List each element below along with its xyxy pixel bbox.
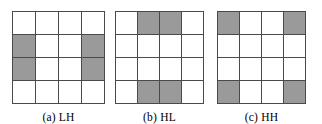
grid-cell-empty <box>182 58 203 80</box>
grid-cell-empty <box>13 81 35 103</box>
grid-cell-shaded <box>218 12 239 34</box>
grid-cell-empty <box>262 35 283 57</box>
grid-cell-shaded <box>82 58 104 80</box>
grid-cell-empty <box>116 12 137 34</box>
panel-hh: (c) HH <box>217 11 306 124</box>
grid-cell-empty <box>160 35 181 57</box>
grid-cell-empty <box>240 35 261 57</box>
grid-cell-empty <box>59 58 81 80</box>
figure-container: (a) LH (b) HL (c) HH <box>0 0 322 124</box>
grid-cell-empty <box>138 35 159 57</box>
caption-lh: (a) LH <box>42 111 74 124</box>
grid-cell-empty <box>284 35 305 57</box>
grid-cell-shaded <box>160 81 181 103</box>
grid-cell-shaded <box>284 81 305 103</box>
panel-hl: (b) HL <box>115 11 204 124</box>
grid-cell-empty <box>82 81 104 103</box>
grid-cell-empty <box>13 12 35 34</box>
grid-cell-empty <box>284 58 305 80</box>
grid-cell-empty <box>59 12 81 34</box>
grid-cell-empty <box>182 81 203 103</box>
grid-cell-empty <box>160 58 181 80</box>
grid-cell-empty <box>262 58 283 80</box>
grid-cell-empty <box>240 81 261 103</box>
grid-cell-empty <box>262 12 283 34</box>
grid-cell-empty <box>138 58 159 80</box>
grid-cell-empty <box>240 12 261 34</box>
grid-cell-empty <box>36 35 58 57</box>
grid-cell-empty <box>182 12 203 34</box>
grid-lh <box>12 11 105 104</box>
panel-lh: (a) LH <box>12 11 105 124</box>
grid-cell-empty <box>82 12 104 34</box>
grid-cell-empty <box>182 35 203 57</box>
grid-cell-empty <box>116 81 137 103</box>
grid-cell-empty <box>218 35 239 57</box>
grid-cell-shaded <box>138 81 159 103</box>
caption-hl: (b) HL <box>143 111 176 124</box>
grid-cell-empty <box>36 58 58 80</box>
grid-cell-empty <box>36 81 58 103</box>
grid-cell-empty <box>116 58 137 80</box>
grid-cell-shaded <box>138 12 159 34</box>
grid-cell-shaded <box>13 58 35 80</box>
grid-hh <box>217 11 306 104</box>
grid-cell-shaded <box>160 12 181 34</box>
grid-cell-empty <box>59 81 81 103</box>
grid-cell-empty <box>262 81 283 103</box>
grid-cell-shaded <box>82 35 104 57</box>
grid-cell-empty <box>59 35 81 57</box>
grid-cell-shaded <box>218 81 239 103</box>
grid-cell-empty <box>116 35 137 57</box>
grid-cell-empty <box>218 58 239 80</box>
grid-cell-shaded <box>13 35 35 57</box>
grid-hl <box>115 11 204 104</box>
grid-cell-empty <box>36 12 58 34</box>
caption-hh: (c) HH <box>245 111 278 124</box>
grid-cell-shaded <box>284 12 305 34</box>
grid-cell-empty <box>240 58 261 80</box>
